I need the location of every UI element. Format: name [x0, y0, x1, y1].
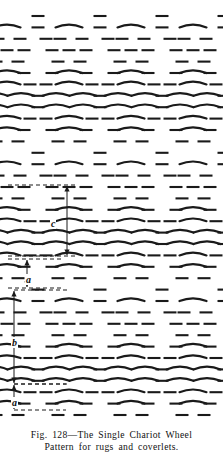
pattern-arc [43, 378, 70, 381]
pattern-arc [180, 298, 207, 301]
dimension-arrowhead-a-upper [24, 260, 29, 266]
pattern-arc [118, 264, 145, 267]
pattern-arc [43, 105, 70, 108]
pattern-arc [180, 116, 207, 119]
pattern-arc [8, 367, 35, 370]
pattern-arc [8, 93, 35, 96]
pattern-arc [132, 241, 159, 244]
pattern-arc [167, 105, 194, 108]
pattern-arc [56, 219, 83, 222]
pattern-arc [56, 264, 83, 267]
pattern-arc [105, 93, 132, 96]
pattern-arc [180, 127, 207, 130]
pattern-arc [180, 264, 207, 267]
pattern-arc [0, 207, 21, 210]
pattern-arc [0, 127, 21, 130]
pattern-arc [132, 230, 159, 233]
pattern-arc [70, 378, 97, 381]
pattern-arc [0, 116, 21, 119]
pattern-arc [0, 70, 21, 73]
pattern-arc [0, 230, 8, 233]
pattern-arc [180, 390, 207, 393]
pattern-arc [43, 93, 70, 96]
pattern-arc [56, 70, 83, 73]
pattern-arc [0, 264, 21, 267]
pattern-arc [8, 378, 35, 381]
pattern-arc [0, 390, 21, 393]
pattern-arc [105, 230, 132, 233]
pattern-arc [0, 355, 21, 358]
pattern-arc [132, 93, 159, 96]
pattern-arc [167, 93, 194, 96]
pattern-arc [118, 70, 145, 73]
pattern-arc [0, 367, 8, 370]
pattern-arc [132, 105, 159, 108]
pattern-arc [8, 105, 35, 108]
pattern-arc [0, 25, 21, 28]
pattern-arc [0, 105, 8, 108]
pattern-arc [118, 355, 145, 358]
pattern-arc [56, 298, 83, 301]
pattern-arc [70, 230, 97, 233]
pattern-arc [43, 230, 70, 233]
pattern-arc [118, 127, 145, 130]
pattern-arc [0, 82, 21, 85]
pattern-arc [180, 401, 207, 404]
pattern-arc [0, 298, 21, 301]
pattern-arc [167, 367, 194, 370]
pattern-arc [132, 378, 159, 381]
pattern-arc [194, 93, 221, 96]
pattern-arc [70, 367, 97, 370]
pattern-arc [56, 401, 83, 404]
pattern-arc [0, 378, 8, 381]
pattern-arc [118, 82, 145, 85]
pattern-arc [0, 93, 8, 96]
dimension-label-a-lower: a [11, 397, 18, 408]
pattern-arc [194, 105, 221, 108]
pattern-arc [118, 162, 145, 165]
pattern-arc [56, 344, 83, 347]
pattern-arc [180, 344, 207, 347]
pattern-arc [180, 219, 207, 222]
pattern-arc [56, 25, 83, 28]
pattern-arc [118, 116, 145, 119]
pattern-arc [194, 230, 221, 233]
pattern-arc [118, 207, 145, 210]
dimension-arrowhead-b [11, 291, 16, 297]
pattern-arc [56, 253, 83, 256]
pattern-arc [180, 162, 207, 165]
weaving-pattern-graphic [0, 0, 223, 425]
pattern-arc [105, 367, 132, 370]
figure-single-chariot-wheel: Fig. 128—The Single Chariot Wheel Patter… [0, 0, 223, 461]
pattern-arc [56, 162, 83, 165]
pattern-arc [0, 162, 21, 165]
pattern-arc [43, 241, 70, 244]
pattern-arc [8, 230, 35, 233]
pattern-arc [0, 253, 21, 256]
figure-caption-line-1: Fig. 128—The Single Chariot Wheel [0, 429, 223, 441]
dimension-label-a-upper: a [25, 274, 32, 285]
dimension-arrowhead-a-lower [11, 385, 16, 391]
pattern-arc [194, 367, 221, 370]
pattern-arc [180, 253, 207, 256]
pattern-arc [8, 241, 35, 244]
pattern-arc [56, 207, 83, 210]
pattern-arc [118, 219, 145, 222]
dimension-label-c: c [50, 218, 56, 229]
pattern-arc [167, 241, 194, 244]
pattern-arc [118, 344, 145, 347]
pattern-arc [167, 230, 194, 233]
pattern-arc [0, 219, 21, 222]
pattern-arc [105, 241, 132, 244]
pattern-arc [118, 390, 145, 393]
pattern-arc [70, 93, 97, 96]
pattern-arc [56, 355, 83, 358]
pattern-arc [118, 298, 145, 301]
pattern-arc [180, 207, 207, 210]
pattern-arc [56, 127, 83, 130]
pattern-arc [194, 378, 221, 381]
dimension-label-b: b [11, 337, 18, 348]
pattern-arc [167, 378, 194, 381]
figure-caption-line-2: Pattern for rugs and coverlets. [0, 441, 223, 453]
pattern-arc [0, 241, 8, 244]
